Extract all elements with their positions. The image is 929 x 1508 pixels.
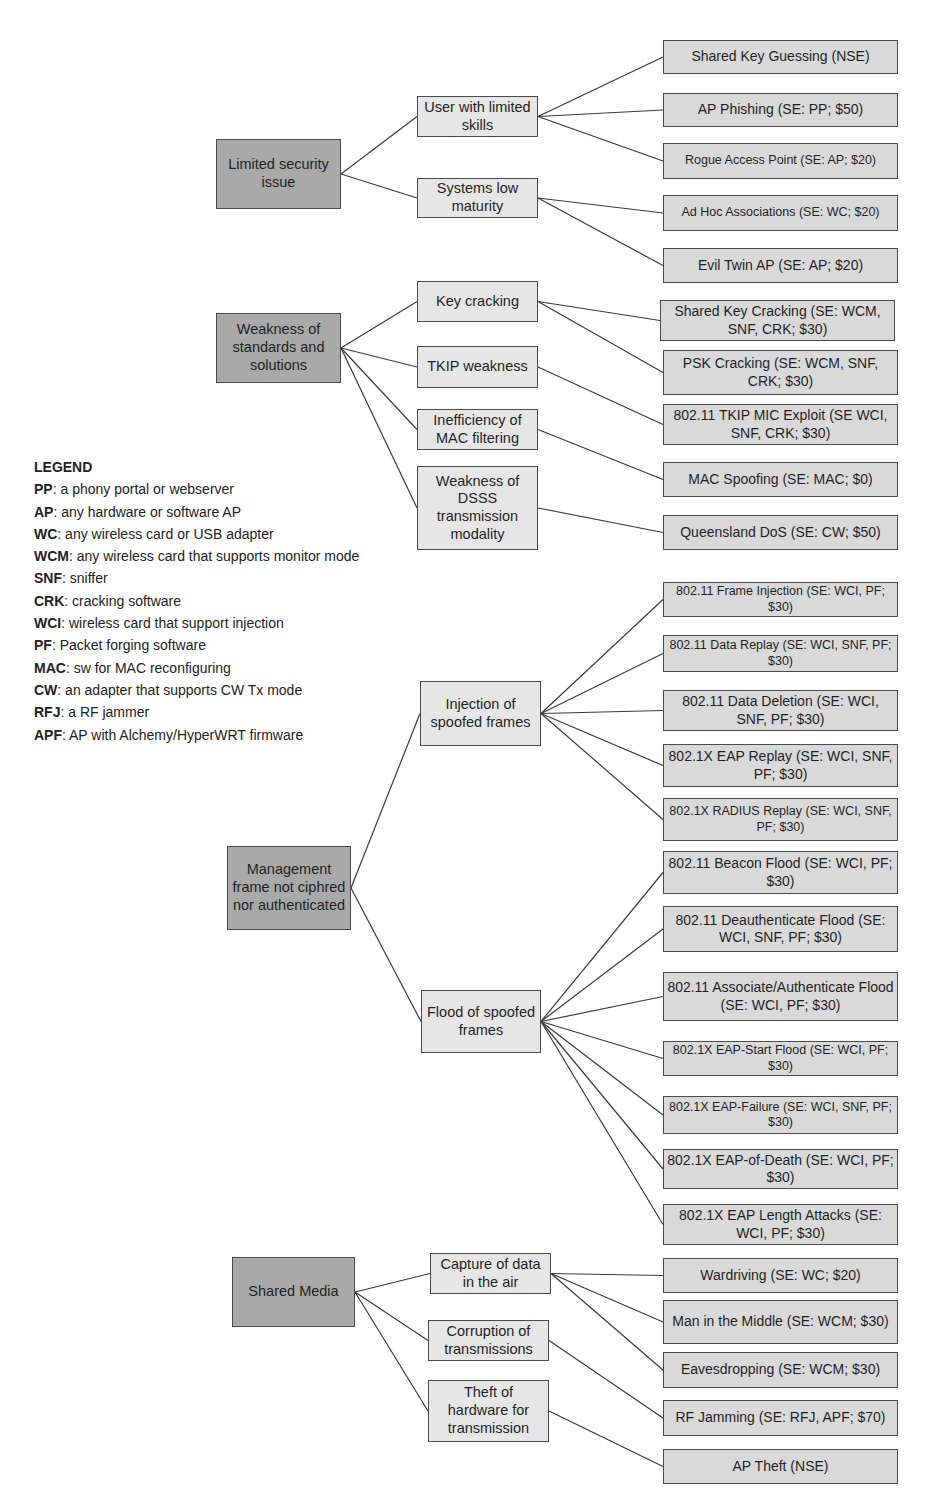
edge (541, 714, 663, 820)
legend-row: SNF: sniffer (34, 567, 359, 589)
legend: LEGEND PP: a phony portal or webserver A… (34, 456, 359, 746)
attack-node: RF Jamming (SE: RFJ, APF; $70) (663, 1400, 898, 1436)
edge (538, 302, 660, 321)
edge (355, 1292, 428, 1411)
edge (351, 714, 420, 889)
legend-row: WC: any wireless card or USB adapter (34, 523, 359, 545)
edge (549, 1341, 663, 1419)
attack-node: 802.11 Data Deletion (SE: WCI, SNF, PF; … (663, 690, 898, 731)
attack-node: 802.11 Frame Injection (SE: WCI, PF; $30… (663, 582, 898, 617)
vulnerability-node: Theft of hardware for transmission (428, 1380, 549, 1442)
attack-node: 802.11 Data Replay (SE: WCI, SNF, PF; $3… (663, 635, 898, 672)
edge (538, 110, 663, 117)
legend-key: CRK (34, 593, 64, 609)
legend-row: CRK: cracking software (34, 590, 359, 612)
legend-key: WCI (34, 615, 61, 631)
legend-desc: : wireless card that support injection (61, 615, 284, 631)
legend-desc: : cracking software (64, 593, 181, 609)
attack-node: 802.1X EAP-of-Death (SE: WCI, PF; $30) (663, 1149, 898, 1189)
edge (541, 929, 663, 1022)
edge (538, 57, 663, 117)
legend-desc: : any wireless card that supports monito… (69, 548, 359, 564)
legend-key: APF (34, 727, 62, 743)
legend-key: PF (34, 637, 52, 653)
legend-key: CW (34, 682, 57, 698)
legend-row: CW: an adapter that supports CW Tx mode (34, 679, 359, 701)
legend-row: APF: AP with Alchemy/HyperWRT firmware (34, 724, 359, 746)
edge (341, 348, 417, 367)
vulnerability-node: Weakness of DSSS transmission modality (417, 466, 538, 550)
legend-desc: : any wireless card or USB adapter (57, 526, 273, 542)
attack-node: Evil Twin AP (SE: AP; $20) (663, 248, 898, 283)
vulnerability-node: Inefficiency of MAC filtering (417, 409, 538, 450)
root-node: Limited security issue (216, 139, 341, 209)
vulnerability-node: Corruption of transmissions (428, 1320, 549, 1361)
attack-node: PSK Cracking (SE: WCM, SNF, CRK; $30) (663, 350, 898, 395)
attack-node: AP Phishing (SE: PP; $50) (663, 93, 898, 127)
attack-node: AP Theft (NSE) (663, 1449, 898, 1484)
legend-key: WCM (34, 548, 69, 564)
legend-key: PP (34, 481, 53, 497)
edge (541, 1022, 663, 1170)
edge (541, 654, 663, 714)
edge (351, 888, 421, 1022)
edge (538, 367, 663, 425)
attack-node: Queensland DoS (SE: CW; $50) (663, 515, 898, 550)
legend-desc: : a phony portal or webserver (53, 481, 234, 497)
legend-key: AP (34, 504, 53, 520)
legend-desc: : sw for MAC reconfiguring (66, 660, 231, 676)
vulnerability-node: Systems low maturity (417, 178, 538, 218)
edge (541, 1022, 663, 1116)
edge (538, 302, 663, 373)
edge (355, 1274, 430, 1293)
attack-node: Wardriving (SE: WC; $20) (663, 1258, 898, 1293)
attack-node: 802.1X RADIUS Replay (SE: WCI, SNF, PF; … (663, 798, 898, 841)
vulnerability-node: Capture of data in the air (430, 1253, 551, 1294)
edge (541, 1022, 663, 1225)
attack-node: 802.11 TKIP MIC Exploit (SE WCI, SNF, CR… (663, 404, 898, 445)
edge (538, 117, 663, 162)
edge (355, 1292, 428, 1341)
legend-row: WCI: wireless card that support injectio… (34, 612, 359, 634)
vulnerability-node: Flood of spoofed frames (421, 990, 541, 1053)
attack-node: Man in the Middle (SE: WCM; $30) (663, 1300, 898, 1344)
legend-key: RFJ (34, 704, 60, 720)
attack-node: MAC Spoofing (SE: MAC; $0) (663, 462, 898, 497)
root-node: Shared Media (232, 1257, 355, 1327)
legend-row: RFJ: a RF jammer (34, 701, 359, 723)
vulnerability-node: Injection of spoofed frames (420, 681, 541, 746)
legend-title: LEGEND (34, 456, 359, 478)
edge (551, 1274, 663, 1276)
legend-row: WCM: any wireless card that supports mon… (34, 545, 359, 567)
attack-node: Shared Key Cracking (SE: WCM, SNF, CRK; … (660, 300, 895, 341)
legend-desc: : sniffer (62, 570, 108, 586)
root-node: Management frame not ciphred nor authent… (227, 846, 351, 930)
vulnerability-node: Key cracking (417, 281, 538, 322)
legend-key: MAC (34, 660, 66, 676)
edge (541, 997, 663, 1022)
attack-node: 802.1X EAP Length Attacks (SE: WCI, PF; … (663, 1204, 898, 1245)
vulnerability-node: TKIP weakness (417, 346, 538, 388)
attack-node: Rogue Access Point (SE: AP; $20) (663, 143, 898, 179)
legend-row: AP: any hardware or software AP (34, 501, 359, 523)
attack-node: 802.11 Beacon Flood (SE: WCI, PF; $30) (663, 851, 898, 894)
edge (538, 508, 663, 533)
edge (551, 1274, 663, 1323)
edge (538, 198, 663, 213)
attack-node: Eavesdropping (SE: WCM; $30) (663, 1352, 898, 1388)
edge (538, 198, 663, 266)
vulnerability-node: User with limited skills (417, 96, 538, 137)
attack-node: 802.1X EAP-Start Flood (SE: WCI, PF; $30… (663, 1041, 898, 1076)
legend-desc: : an adapter that supports CW Tx mode (57, 682, 302, 698)
edge (549, 1411, 663, 1467)
edge (541, 600, 663, 714)
attack-node: 802.1X EAP Replay (SE: WCI, SNF, PF; $30… (663, 744, 898, 787)
edge (341, 348, 417, 430)
legend-desc: : a RF jammer (60, 704, 149, 720)
edge (341, 174, 417, 198)
attack-node: 802.11 Deauthenticate Flood (SE: WCI, SN… (663, 906, 898, 952)
edge (341, 117, 417, 175)
legend-desc: : Packet forging software (52, 637, 206, 653)
attack-node: Shared Key Guessing (NSE) (663, 40, 898, 74)
edge (541, 873, 663, 1022)
